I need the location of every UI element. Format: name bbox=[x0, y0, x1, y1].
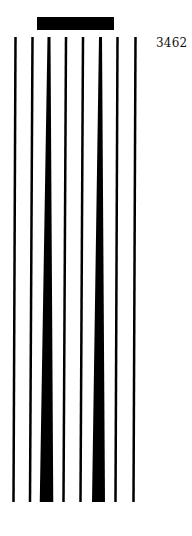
tapered-wedge-6 bbox=[92, 37, 105, 502]
line-diagram bbox=[0, 0, 192, 536]
vertical-line-7 bbox=[114, 37, 119, 502]
vertical-lines-group bbox=[12, 37, 137, 502]
vertical-line-1 bbox=[12, 37, 17, 502]
top-bar bbox=[37, 17, 114, 30]
vertical-line-5 bbox=[79, 37, 84, 502]
vertical-line-8 bbox=[132, 37, 137, 502]
tapered-wedge-3 bbox=[40, 37, 54, 502]
vertical-line-4 bbox=[62, 37, 67, 502]
figure-number-label: 3462 bbox=[156, 36, 187, 50]
vertical-line-2 bbox=[29, 37, 34, 502]
